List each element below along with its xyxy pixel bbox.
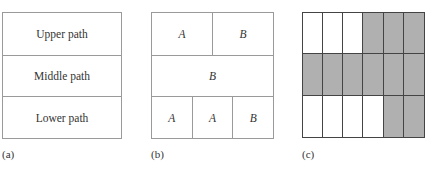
empty-cell [323,13,343,54]
empty-cell [303,96,323,137]
cell: B [212,13,273,55]
upper-row: A B [152,13,273,55]
empty-cell [343,96,363,137]
panel-a-paths: Upper path Middle path Lower path [2,12,122,139]
empty-cell [303,13,323,54]
shaded-cell [384,54,404,95]
middle-path-row: Middle path [3,55,121,97]
cell: B [232,97,273,138]
panel-c-grid [302,12,425,138]
empty-cell [323,96,343,137]
middle-row: B [152,55,273,97]
cell: A [152,13,212,55]
empty-cell [343,13,363,54]
shaded-cell [384,13,404,54]
caption-b: (b) [151,148,164,160]
cell: A [152,97,192,138]
shaded-cell [404,13,424,54]
shaded-cell [384,96,404,137]
shaded-cell [303,54,323,95]
empty-cell [363,96,383,137]
panel-b-assignments: A B B A A B [151,12,274,139]
shaded-cell [363,13,383,54]
upper-path-row: Upper path [3,13,121,55]
shaded-cell [404,54,424,95]
cell: B [152,56,273,97]
lower-row: A A B [152,96,273,138]
shaded-cell [363,54,383,95]
caption-c: (c) [302,148,314,160]
cell: A [192,97,233,138]
shaded-cell [404,96,424,137]
caption-a: (a) [2,148,14,160]
lower-path-row: Lower path [3,96,121,138]
shaded-cell [343,54,363,95]
shaded-cell [323,54,343,95]
